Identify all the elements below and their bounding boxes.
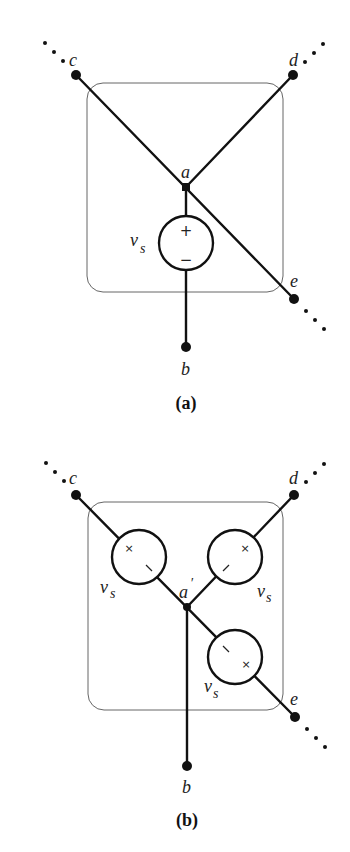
ellipsis-d-icon	[303, 42, 325, 64]
ellipsis-e-icon	[304, 309, 326, 331]
node-a	[183, 603, 191, 611]
x-mark: ×	[124, 542, 133, 555]
node-a	[182, 183, 190, 191]
node-c	[71, 70, 81, 80]
source-label: v	[257, 581, 265, 601]
voltage-source-lower-right	[208, 630, 262, 684]
label-c: c	[69, 468, 77, 488]
label-d: d	[289, 50, 299, 70]
node-c	[71, 490, 81, 500]
source-label: v	[130, 230, 138, 250]
node-d	[289, 490, 299, 500]
minus-sign: −	[180, 251, 193, 269]
node-d	[288, 70, 298, 80]
label-e: e	[290, 689, 298, 709]
diagram-canvas: + − v s c d a e b (a)	[0, 0, 350, 852]
label-a: a	[179, 582, 188, 602]
wire-a-d	[186, 75, 293, 187]
source-label: v	[204, 676, 212, 696]
label-e: e	[290, 271, 298, 291]
source-label-subscript: s	[110, 586, 116, 601]
source-label-subscript: s	[140, 241, 146, 256]
label-a: a	[181, 162, 190, 182]
plus-sign: +	[180, 222, 193, 240]
ellipsis-e-icon	[305, 727, 327, 749]
source-label-subscript: s	[213, 686, 219, 701]
diagram-b: × v s × v s × v s c d a	[44, 461, 327, 831]
node-b	[181, 342, 191, 352]
source-label: v	[100, 577, 108, 597]
ellipsis-c-icon	[43, 41, 65, 63]
label-b: b	[181, 359, 190, 379]
caption-a: (a)	[176, 393, 197, 414]
node-e	[289, 294, 299, 304]
node-b	[182, 761, 192, 771]
x-mark: ×	[240, 542, 249, 555]
node-e	[290, 712, 300, 722]
ellipsis-c-icon	[44, 461, 66, 483]
caption-b: (b)	[176, 810, 198, 831]
x-mark: ×	[241, 658, 250, 671]
voltage-source-upper-right	[208, 530, 262, 584]
label-a-prime: ′	[190, 576, 194, 591]
voltage-source-upper-left	[112, 530, 166, 584]
label-c: c	[69, 50, 77, 70]
diagram-a: + − v s c d a e b (a)	[43, 41, 326, 414]
source-label-subscript: s	[266, 590, 272, 605]
label-d: d	[289, 468, 299, 488]
ellipsis-d-icon	[304, 462, 326, 484]
label-b: b	[182, 777, 191, 797]
